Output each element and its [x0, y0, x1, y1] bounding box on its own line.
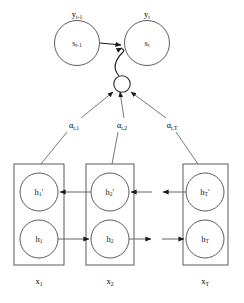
attention-edge-1-lower: [41, 132, 67, 164]
decoder-output-label-prev: yt-1: [72, 9, 83, 20]
attention-weight-label-2: αt,2: [117, 121, 127, 131]
decoder-recurrence-arrow: [100, 43, 121, 45]
diagram-canvas: st-1 yt-1 st yt αt,1: [0, 0, 244, 303]
attention-edge-T-upper: [131, 92, 166, 118]
decoder-output-label-cur: yt: [144, 9, 150, 20]
decoder-state-node-prev: st-1: [55, 21, 100, 66]
encoder-input-label-2: x2: [106, 276, 113, 287]
decoder-state-node-cur: st: [125, 21, 170, 66]
encoder-timestep-group-T: hT′ hT: [183, 164, 228, 265]
encoder-input-label-T: xT: [201, 276, 209, 287]
attention-weight-label-1: αt,1: [69, 121, 79, 131]
encoder-input-label-1: x1: [35, 276, 42, 287]
context-vector-node: [114, 76, 130, 92]
attention-diagram-figure: st-1 yt-1 st yt αt,1: [0, 0, 244, 303]
context-vector-circle: [114, 76, 130, 92]
attention-edge-1-upper: [81, 92, 113, 118]
context-to-state-arrow: [115, 48, 124, 76]
attention-edge-T-lower: [176, 132, 198, 164]
attention-edge-2-upper: [120, 92, 124, 118]
encoder-timestep-group-2: h2′ h2: [86, 164, 134, 265]
encoder-timestep-group-1: h1′ h1: [14, 164, 64, 265]
attention-weight-label-T: αt,T: [167, 121, 178, 131]
attention-edge-2-lower: [112, 132, 118, 164]
